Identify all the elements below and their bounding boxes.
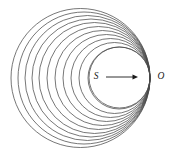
figure-background <box>0 0 182 156</box>
eccentric-circles-diagram: S O <box>0 0 182 156</box>
figure-container: S O <box>0 0 182 156</box>
label-observer-point: O <box>158 71 165 81</box>
label-source-point: S <box>94 71 99 81</box>
